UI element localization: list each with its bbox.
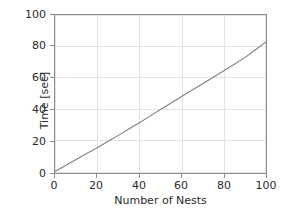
x-tick-mark: [54, 174, 55, 178]
x-tick-mark: [181, 174, 182, 178]
y-tick-mark: [50, 109, 54, 110]
series-time-vs-nests: [55, 42, 266, 172]
x-tick-mark: [139, 174, 140, 178]
y-tick-label: 100: [25, 9, 46, 21]
x-tick-label: 20: [89, 180, 103, 192]
x-tick-label: 60: [174, 180, 188, 192]
x-tick-label: 40: [132, 180, 146, 192]
y-tick-mark: [50, 45, 54, 46]
y-tick-mark: [50, 141, 54, 142]
y-tick-mark: [50, 77, 54, 78]
chart-figure: 0 20 40 60 80 100 0 20 40 60 80 100 Numb…: [0, 0, 293, 211]
x-tick-label: 80: [217, 180, 231, 192]
data-series-line: [55, 15, 266, 173]
x-axis-label: Number of Nests: [54, 194, 267, 207]
y-tick-mark: [50, 14, 54, 15]
x-tick-mark: [96, 174, 97, 178]
x-tick-mark: [224, 174, 225, 178]
x-tick-label: 100: [256, 180, 277, 192]
y-axis-label: Time [sec]: [38, 21, 51, 181]
y-tick-mark: [50, 173, 54, 174]
x-tick-mark: [266, 174, 267, 178]
x-tick-label: 0: [51, 180, 58, 192]
plot-area: [54, 14, 267, 174]
